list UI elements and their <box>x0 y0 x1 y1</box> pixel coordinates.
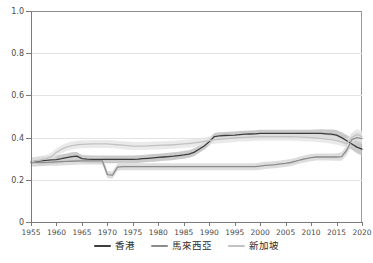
x-tick <box>260 222 261 226</box>
y-tick-label: 0.4 <box>11 133 24 142</box>
x-tick <box>82 222 83 226</box>
plot-area: 00.20.40.60.81.0 19551960196519701975198… <box>31 11 362 222</box>
x-tick-label: 2005 <box>276 228 295 237</box>
x-tick <box>311 222 312 226</box>
x-tick-label: 1965 <box>72 228 91 237</box>
chart-title <box>0 0 373 3</box>
legend-item[interactable]: 香港 <box>94 241 135 251</box>
legend-swatch-icon <box>151 245 168 247</box>
x-tick <box>235 222 236 226</box>
y-tick-label: 1.0 <box>11 7 24 16</box>
x-tick <box>286 222 287 226</box>
x-tick-label: 1990 <box>200 228 219 237</box>
x-tick <box>209 222 210 226</box>
y-tick-label: 0.8 <box>11 49 24 58</box>
x-tick-label: 2010 <box>302 228 321 237</box>
y-tick <box>26 138 31 139</box>
y-tick <box>26 180 31 181</box>
x-tick-label: 2020 <box>352 228 371 237</box>
x-tick-label: 1960 <box>47 228 66 237</box>
chart-container: 00.20.40.60.81.0 19551960196519701975198… <box>0 0 373 263</box>
y-tick-label: 0.2 <box>11 175 24 184</box>
x-tick-label: 1980 <box>149 228 168 237</box>
legend-label: 新加坡 <box>249 241 279 251</box>
x-tick <box>133 222 134 226</box>
x-tick <box>107 222 108 226</box>
x-tick <box>184 222 185 226</box>
y-tick <box>26 53 31 54</box>
legend-label: 香港 <box>115 241 135 251</box>
x-tick <box>337 222 338 226</box>
x-tick <box>31 222 32 226</box>
y-axis-line <box>31 11 32 222</box>
legend-swatch-icon <box>228 245 245 247</box>
chart-legend: 香港馬來西亞新加坡 <box>0 241 373 251</box>
y-tick-label: 0.6 <box>11 91 24 100</box>
x-tick-label: 1985 <box>174 228 193 237</box>
y-tick <box>26 95 31 96</box>
legend-item[interactable]: 新加坡 <box>228 241 279 251</box>
legend-item[interactable]: 馬來西亞 <box>151 241 212 251</box>
x-axis-line <box>31 222 362 223</box>
y-tick-label: 0 <box>19 218 24 227</box>
y-tick <box>26 11 31 12</box>
x-tick-label: 1955 <box>21 228 40 237</box>
x-tick <box>362 222 363 226</box>
x-tick-label: 1975 <box>123 228 142 237</box>
x-tick-label: 1970 <box>98 228 117 237</box>
x-tick <box>158 222 159 226</box>
x-tick-label: 1995 <box>225 228 244 237</box>
legend-label: 馬來西亞 <box>172 241 212 251</box>
x-tick-label: 2000 <box>251 228 270 237</box>
series-plot <box>31 11 362 222</box>
legend-swatch-icon <box>94 245 111 247</box>
x-tick <box>56 222 57 226</box>
x-tick-label: 2015 <box>327 228 346 237</box>
